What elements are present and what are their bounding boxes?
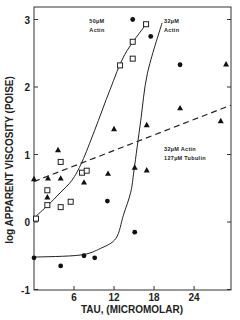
y-tick-label: 3 xyxy=(24,15,30,26)
circle-marker xyxy=(132,230,137,235)
triangle-marker xyxy=(55,147,61,152)
x-tick-label: 12 xyxy=(108,292,120,303)
x-axis-title: TAU, (MICROMOLAR) xyxy=(81,304,183,315)
annotation-label: 32µM xyxy=(164,18,179,24)
x-tick-label: 24 xyxy=(189,292,201,303)
annotation-label: Actin xyxy=(89,27,105,33)
circle-marker xyxy=(82,253,87,258)
triangle-marker xyxy=(44,194,50,199)
circle-marker xyxy=(58,263,63,268)
annotation-label: 32µM Actin xyxy=(164,146,196,152)
plot-border xyxy=(34,7,231,290)
circle-marker xyxy=(32,255,37,260)
y-tick-label: -1 xyxy=(21,285,30,296)
circle-marker xyxy=(178,62,183,67)
fit-line-dashed xyxy=(34,105,231,181)
triangle-marker xyxy=(144,167,150,172)
triangle-marker xyxy=(45,175,51,180)
triangle-marker xyxy=(218,118,224,123)
triangle-marker xyxy=(58,175,64,180)
triangle-marker xyxy=(105,170,111,175)
x-tick-label: 18 xyxy=(148,292,160,303)
square-marker xyxy=(58,159,63,164)
triangle-marker xyxy=(144,122,150,127)
y-tick-label: 0 xyxy=(24,217,30,228)
square-marker xyxy=(45,188,50,193)
triangle-marker xyxy=(81,179,87,184)
square-marker xyxy=(130,39,135,44)
square-marker xyxy=(34,216,39,221)
data-points xyxy=(31,17,229,268)
square-marker xyxy=(118,63,123,68)
x-tick-label: 6 xyxy=(71,292,77,303)
circle-marker xyxy=(92,255,97,260)
annotation-label: 50µM xyxy=(89,18,104,24)
square-marker xyxy=(144,22,149,27)
y-tick-label: 2 xyxy=(24,82,30,93)
square-marker xyxy=(45,203,50,208)
square-marker xyxy=(58,205,63,210)
square-marker xyxy=(68,199,73,204)
circle-marker xyxy=(130,17,135,22)
triangle-marker xyxy=(132,164,138,169)
annotations: 50µMActin32µMActin32µM Actin127µM Tubuli… xyxy=(89,18,206,161)
square-marker xyxy=(84,168,89,173)
square-marker xyxy=(130,56,135,61)
triangle-marker xyxy=(177,105,183,110)
annotation-label: Actin xyxy=(164,27,180,33)
circle-marker xyxy=(148,34,153,39)
circle-marker xyxy=(105,199,110,204)
viscosity-chart: 6121824-10123 50µMActin32µMActin32µM Act… xyxy=(0,0,240,320)
fit-curve xyxy=(34,24,146,218)
annotation-label: 127µM Tubulin xyxy=(164,155,206,161)
triangle-marker xyxy=(223,61,229,66)
plot-frame xyxy=(34,7,231,290)
y-axis-title: log APPARENT VISCOSITY (POISE) xyxy=(4,76,15,244)
triangle-marker xyxy=(31,176,37,181)
fit-curve xyxy=(34,23,162,257)
triangle-marker xyxy=(111,126,117,131)
y-tick-label: 1 xyxy=(24,150,30,161)
